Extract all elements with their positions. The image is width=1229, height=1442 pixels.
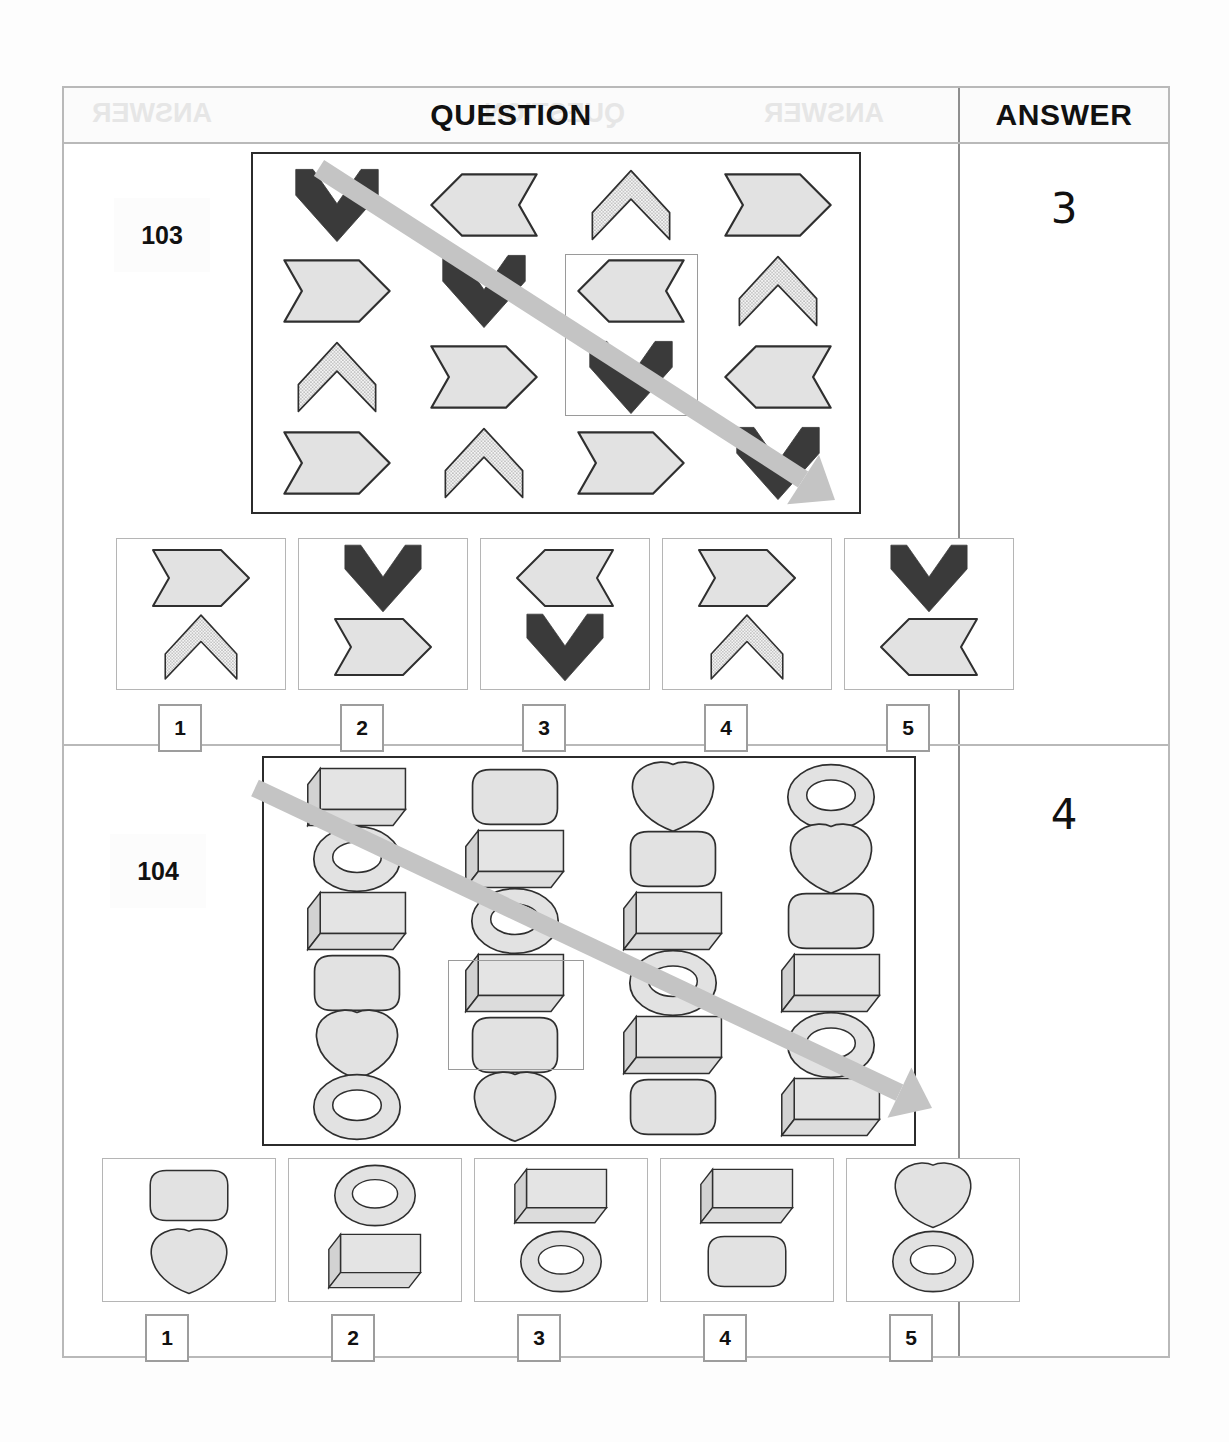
matrix-cell-banner-right-gray [429, 343, 539, 411]
option-shape-box-3d [327, 1231, 424, 1291]
matrix-cell-chevron-down-dark [441, 252, 527, 331]
matrix-cell-box-3d [622, 889, 725, 953]
matrix-cell-heart [629, 759, 717, 835]
option-shape-chevron-up-dotted [708, 612, 786, 682]
matrix-panel-103 [251, 152, 861, 514]
matrix-cell-box-3d [306, 765, 409, 829]
question-block-104: 104 [64, 746, 958, 1358]
option-label-5[interactable]: 5 [886, 704, 930, 752]
matrix-cell-torus [469, 885, 561, 957]
option-shape-box-3d [513, 1166, 610, 1226]
option-shape-banner-left-gray [879, 616, 979, 678]
option-shape-torus [518, 1228, 604, 1295]
matrix-cell-banner-right-gray [576, 429, 686, 497]
option-shape-chevron-down-dark [525, 611, 605, 684]
option-card-5[interactable] [846, 1158, 1020, 1302]
option-shape-banner-right-gray [151, 547, 251, 609]
option-shape-box-3d [699, 1166, 796, 1226]
option-shape-banner-right-gray [333, 616, 433, 678]
matrix-cell-chevron-up-dotted [295, 339, 379, 415]
option-label-1[interactable]: 1 [145, 1314, 189, 1362]
option-shape-chevron-down-dark [889, 542, 969, 615]
matrix-cell-rounded-rect [785, 890, 877, 952]
matrix-cell-banner-right-gray [282, 257, 392, 325]
option-shape-rounded-rect [705, 1233, 789, 1290]
option-label-3[interactable]: 3 [522, 704, 566, 752]
answer-value-104: 4 [958, 790, 1170, 839]
matrix-cell-chevron-down-dark [735, 424, 821, 503]
option-shape-heart [892, 1160, 974, 1231]
matrix-cell-box-3d [622, 1013, 725, 1077]
matrix-cell-torus [311, 1071, 403, 1143]
question-number-104: 104 [110, 834, 206, 908]
matrix-cell-chevron-up-dotted [736, 253, 820, 329]
option-shape-chevron-up-dotted [162, 612, 240, 682]
matrix-panel-104 [262, 756, 916, 1146]
option-label-2[interactable]: 2 [340, 704, 384, 752]
answer-column-header: ANSWER [958, 88, 1168, 142]
option-card-1[interactable] [102, 1158, 276, 1302]
matrix-cell-chevron-up-dotted [442, 425, 526, 501]
option-card-1[interactable] [116, 538, 286, 690]
option-label-1[interactable]: 1 [158, 704, 202, 752]
option-label-4[interactable]: 4 [704, 704, 748, 752]
option-label-3[interactable]: 3 [517, 1314, 561, 1362]
matrix-cell-box-3d [780, 951, 883, 1015]
matrix-cell-chevron-up-dotted [589, 167, 673, 243]
table-header-row: ANSWER QUESTION ANSWER QUESTION ANSWER [64, 88, 1168, 144]
matrix-cell-torus [311, 823, 403, 895]
question-column-header: QUESTION [64, 88, 958, 142]
matrix-cell-heart [787, 821, 875, 897]
matrix-cell-torus [785, 1009, 877, 1081]
option-shape-rounded-rect [147, 1167, 231, 1224]
answer-sheet: ANSWER QUESTION ANSWER QUESTION ANSWER 1… [62, 86, 1170, 1358]
answer-value-103: 3 [958, 184, 1170, 233]
matrix-cell-banner-right-gray [282, 429, 392, 497]
option-label-5[interactable]: 5 [889, 1314, 933, 1362]
matrix-highlight-box [448, 960, 584, 1070]
option-shape-torus [332, 1162, 418, 1229]
question-block-103: 103 [64, 144, 958, 744]
option-card-3[interactable] [474, 1158, 648, 1302]
matrix-cell-rounded-rect [627, 828, 719, 890]
option-card-4[interactable] [662, 538, 832, 690]
matrix-cell-box-3d [780, 1075, 883, 1139]
option-card-2[interactable] [288, 1158, 462, 1302]
matrix-cell-heart [471, 1069, 559, 1145]
matrix-cell-rounded-rect [627, 1076, 719, 1138]
matrix-cell-rounded-rect [469, 766, 561, 828]
option-card-5[interactable] [844, 538, 1014, 690]
option-shape-banner-left-gray [515, 547, 615, 609]
option-card-2[interactable] [298, 538, 468, 690]
matrix-cell-box-3d [464, 827, 567, 891]
option-card-4[interactable] [660, 1158, 834, 1302]
option-shape-banner-right-gray [697, 547, 797, 609]
matrix-cell-box-3d [306, 889, 409, 953]
matrix-cell-rounded-rect [311, 952, 403, 1014]
question-number-103: 103 [114, 198, 210, 272]
option-shape-chevron-down-dark [343, 542, 423, 615]
matrix-cell-banner-right-gray [723, 171, 833, 239]
option-label-2[interactable]: 2 [331, 1314, 375, 1362]
matrix-cell-banner-left-gray [723, 343, 833, 411]
matrix-cell-banner-left-gray [429, 171, 539, 239]
matrix-cell-torus [627, 947, 719, 1019]
option-shape-torus [890, 1228, 976, 1295]
option-label-4[interactable]: 4 [703, 1314, 747, 1362]
option-card-3[interactable] [480, 538, 650, 690]
option-shape-heart [148, 1226, 230, 1297]
matrix-cell-chevron-down-dark [294, 166, 380, 245]
matrix-highlight-box [565, 254, 698, 416]
